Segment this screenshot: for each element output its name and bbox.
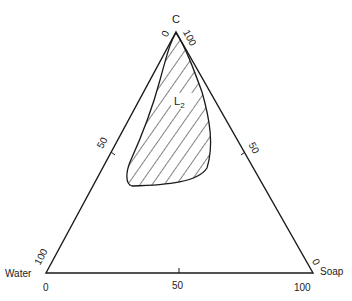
vertex-label-soap: Soap [320, 267, 343, 277]
region-label-l2: L2 [174, 96, 185, 111]
ternary-diagram [0, 0, 352, 301]
bottom-tick-label-50: 50 [172, 281, 183, 291]
region-label-subscript: 2 [180, 101, 184, 110]
vertex-label-water: Water [5, 269, 31, 279]
bottom-tick-label-100: 100 [294, 283, 311, 293]
left-tick-50 [111, 152, 115, 155]
bottom-tick-label-0: 0 [43, 283, 49, 293]
vertex-label-c: C [172, 14, 180, 24]
